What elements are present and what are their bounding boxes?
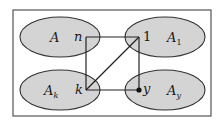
set-label-A: A <box>49 30 59 45</box>
node-label-1: 1 <box>143 29 151 44</box>
node-label-n: n <box>74 29 82 44</box>
node-label-k: k <box>75 82 83 97</box>
node-label-y: y <box>142 81 151 96</box>
set-diagram: AA1AkAy n1ky <box>0 0 223 123</box>
node-dot-y <box>136 87 141 92</box>
